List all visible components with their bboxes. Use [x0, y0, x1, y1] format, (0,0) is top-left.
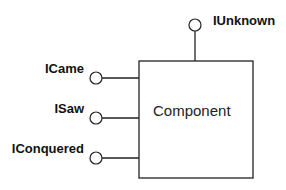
icame-label: ICame — [45, 61, 84, 76]
iunknown-label: IUnknown — [213, 13, 275, 28]
interface-iconquered: IConquered — [12, 141, 139, 164]
iconquered-lollipop-icon — [90, 152, 102, 164]
isaw-lollipop-icon — [90, 112, 102, 124]
icame-lollipop-icon — [90, 72, 102, 84]
interface-iunknown: IUnknown — [189, 13, 275, 61]
component-label: Component — [153, 102, 231, 119]
interface-icame: ICame — [45, 61, 139, 84]
interface-isaw: ISaw — [54, 101, 139, 124]
iunknown-lollipop-icon — [189, 19, 201, 31]
iconquered-label: IConquered — [12, 141, 84, 156]
com-component-diagram: Component IUnknown ICame ISaw IConquered — [0, 0, 286, 190]
component-box — [139, 61, 253, 178]
isaw-label: ISaw — [54, 101, 85, 116]
